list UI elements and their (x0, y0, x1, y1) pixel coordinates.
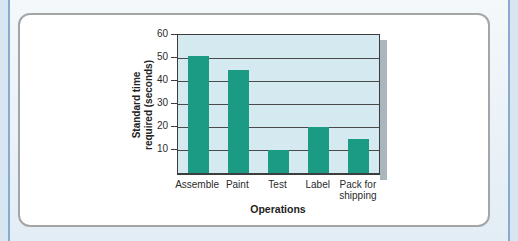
y-tick-label-40: 40 (142, 74, 168, 86)
plot-drop-shadow (380, 40, 387, 180)
y-tick-label-10: 10 (142, 143, 168, 155)
y-tick-mark-50 (171, 57, 177, 58)
y-tick-mark-20 (171, 126, 177, 127)
y-tick-mark-30 (171, 103, 177, 104)
page-background: Standard time required (seconds) 6050403… (0, 0, 518, 241)
x-axis-title: Operations (208, 203, 348, 215)
bar-label (308, 127, 329, 173)
bar-pack-for-shipping (348, 139, 369, 174)
y-tick-mark-40 (171, 80, 177, 81)
x-category-label-pack-for-shipping: Pack for shipping (326, 179, 390, 201)
y-tick-mark-60 (171, 34, 177, 35)
bar-paint (228, 70, 249, 174)
plot-area (177, 34, 380, 175)
y-tick-label-20: 20 (142, 120, 168, 132)
y-tick-label-30: 30 (142, 97, 168, 109)
y-axis-title-line1: Standard time (131, 71, 142, 138)
bar-test (268, 150, 289, 173)
y-tick-label-60: 60 (142, 28, 168, 40)
y-tick-mark-10 (171, 149, 177, 150)
bar-assemble (188, 56, 209, 173)
bar-chart: Standard time required (seconds) 6050403… (0, 0, 518, 241)
y-tick-label-50: 50 (142, 51, 168, 63)
